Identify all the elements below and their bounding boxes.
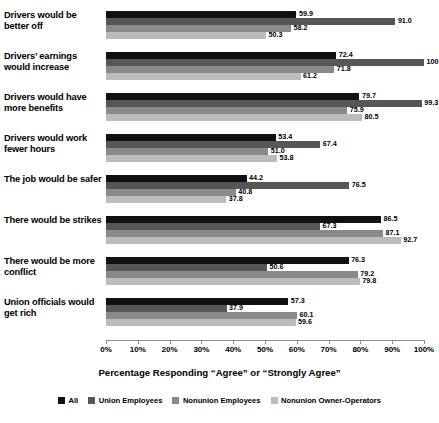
axis-tick-label: 90% <box>384 345 400 354</box>
category-label: Drivers’ earnings would increase <box>4 51 102 74</box>
bar-row: 50.6 <box>106 264 424 271</box>
bar-value-label: 92.7 <box>401 235 418 244</box>
bar-group: There would be more conflict76.350.679.2… <box>0 256 439 296</box>
legend-label: Nonunion Employees <box>183 396 261 405</box>
bar-row: 37.9 <box>106 305 424 312</box>
bar-value-label: 53.8 <box>277 153 294 162</box>
legend-item[interactable]: All <box>58 396 78 405</box>
legend-item[interactable]: Union Employees <box>88 396 162 405</box>
bar-value-label: 50.3 <box>266 30 283 39</box>
bar-row: 61.2 <box>106 73 424 80</box>
bar <box>106 52 336 59</box>
category-label: Drivers would have more benefits <box>4 92 102 115</box>
bar <box>106 11 296 18</box>
bar <box>106 25 291 32</box>
bar-stack: 59.991.058.250.3 <box>106 11 424 41</box>
bar-stack: 57.337.960.159.6 <box>106 298 424 328</box>
bar <box>106 237 401 244</box>
axis-tick-label: 40% <box>225 345 241 354</box>
bar-value-label: 79.7 <box>359 91 376 100</box>
bar-group: Drivers’ earnings would increase72.41007… <box>0 51 439 91</box>
bar-stack: 76.350.679.279.8 <box>106 257 424 287</box>
bar-row: 86.5 <box>106 216 424 223</box>
bar <box>106 155 277 162</box>
bar-stack: 72.410071.861.2 <box>106 52 424 82</box>
bar <box>106 73 301 80</box>
bar-value-label: 37.9 <box>227 303 244 312</box>
category-label: There would be more conflict <box>4 256 102 279</box>
bar-row: 76.5 <box>106 182 424 189</box>
bar-row: 37.8 <box>106 196 424 203</box>
bar-row: 40.8 <box>106 189 424 196</box>
bar-value-label: 86.5 <box>381 214 398 223</box>
bar-value-label: 67.4 <box>320 139 337 148</box>
bar-group: Drivers would work fewer hours53.467.451… <box>0 133 439 173</box>
axis-tick-label: 70% <box>321 345 337 354</box>
legend-label: All <box>68 396 78 405</box>
bar-value-label: 87.1 <box>383 228 400 237</box>
bar-value-label: 53.4 <box>276 132 293 141</box>
bar-row: 59.6 <box>106 319 424 326</box>
axis-tick-label: 100% <box>414 345 434 354</box>
bar <box>106 148 268 155</box>
bar <box>106 182 349 189</box>
bar-value-label: 72.4 <box>336 50 353 59</box>
bar-row: 53.4 <box>106 134 424 141</box>
bar-value-label: 61.2 <box>301 71 318 80</box>
bar-row: 79.8 <box>106 278 424 285</box>
axis-tick <box>233 340 234 344</box>
bar-row: 100 <box>106 59 424 66</box>
bar <box>106 100 422 107</box>
bar <box>106 305 227 312</box>
bar <box>106 134 276 141</box>
axis-tick-label: 80% <box>352 345 368 354</box>
bar-row: 92.7 <box>106 237 424 244</box>
bar-row: 44.2 <box>106 175 424 182</box>
legend-item[interactable]: Nonunion Employees <box>172 396 260 405</box>
legend-swatch-icon <box>88 397 95 404</box>
axis-tick <box>297 340 298 344</box>
axis-tick-label: 30% <box>193 345 209 354</box>
plot-area: Drivers would be better off59.991.058.25… <box>0 0 439 340</box>
bar-row: 91.0 <box>106 18 424 25</box>
bar-value-label: 67.3 <box>320 221 337 230</box>
bar-row: 79.7 <box>106 93 424 100</box>
axis-tick <box>265 340 266 344</box>
bar-group: Drivers would have more benefits79.799.3… <box>0 92 439 132</box>
axis-tick <box>170 340 171 344</box>
legend-label: Nonunion Owner-Operators <box>281 396 381 405</box>
axis-tick <box>138 340 139 344</box>
bar-stack: 86.567.387.192.7 <box>106 216 424 246</box>
bar-row: 72.4 <box>106 52 424 59</box>
axis-tick-label: 60% <box>289 345 305 354</box>
bar <box>106 223 320 230</box>
bar <box>106 264 267 271</box>
bar-chart: Drivers would be better off59.991.058.25… <box>0 0 439 423</box>
bar-group: The job would be safer44.276.540.837.8 <box>0 174 439 214</box>
category-label: Union officials would get rich <box>4 297 102 320</box>
bar-row: 87.1 <box>106 230 424 237</box>
legend-label: Union Employees <box>99 396 163 405</box>
bar-value-label: 80.5 <box>362 112 379 121</box>
axis-tick <box>424 340 425 344</box>
bar <box>106 271 358 278</box>
bar-value-label: 76.5 <box>349 180 366 189</box>
category-label: Drivers would work fewer hours <box>4 133 102 156</box>
legend-swatch-icon <box>271 397 278 404</box>
legend-swatch-icon <box>172 397 179 404</box>
bar-row: 76.3 <box>106 257 424 264</box>
bar-row: 79.2 <box>106 271 424 278</box>
bar-value-label: 50.6 <box>267 262 284 271</box>
x-axis: 0%10%20%30%40%50%60%70%80%90%100% <box>106 340 424 341</box>
bar <box>106 107 347 114</box>
bar-group: Union officials would get rich57.337.960… <box>0 297 439 337</box>
axis-tick-label: 0% <box>100 345 112 354</box>
axis-tick <box>106 340 107 344</box>
bar-value-label: 91.0 <box>395 16 412 25</box>
legend-item[interactable]: Nonunion Owner-Operators <box>271 396 382 405</box>
bar-row: 60.1 <box>106 312 424 319</box>
bar <box>106 298 288 305</box>
bar-row: 51.0 <box>106 148 424 155</box>
bar-value-label: 59.6 <box>296 317 313 326</box>
bar <box>106 230 383 237</box>
